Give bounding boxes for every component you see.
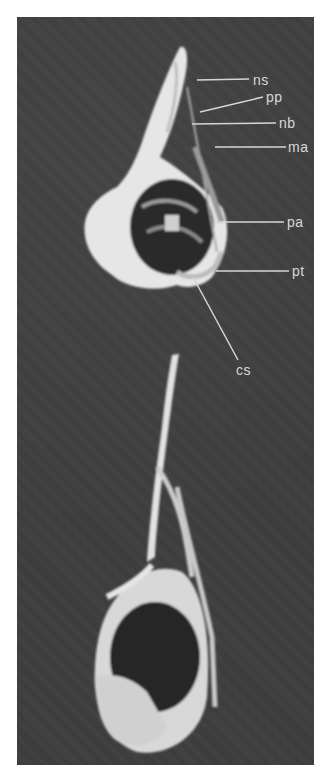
lower-skull xyxy=(95,354,215,753)
specimen-photo: ns pp nb ma pa pt cs xyxy=(17,17,314,765)
label-cs: cs xyxy=(236,363,251,377)
label-pa: pa xyxy=(287,215,304,229)
upper-skull xyxy=(84,47,227,289)
label-ma: ma xyxy=(288,140,308,154)
label-ns: ns xyxy=(253,73,269,87)
specimen-illustration xyxy=(17,17,314,765)
label-nb: nb xyxy=(279,116,296,130)
label-pt: pt xyxy=(292,264,305,278)
label-pp: pp xyxy=(266,90,283,104)
